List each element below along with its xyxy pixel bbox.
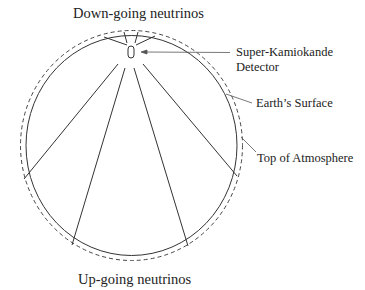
earth-surface-circle [26,36,237,256]
detector-label-line2: Detector [236,61,279,74]
bottom-label: Up-going neutrinos [78,272,191,287]
diagram-graphic [0,0,365,290]
up-going-paths [24,64,237,246]
detector-arrowhead [141,50,147,54]
top-of-atmosphere-circle [21,31,243,261]
atmosphere-leader [241,137,256,152]
earth-surface-label: Earth’s Surface [256,97,333,110]
detector-label-line1: Super-Kamiokande [236,46,333,59]
detector-icon [128,46,134,58]
atmosphere-label: Top of Atmosphere [257,152,353,165]
neutrino-diagram: Down-going neutrinos Super-Kamiokande De… [0,0,365,290]
down-going-paths [104,32,155,45]
earth-surface-leader [226,94,252,103]
top-label: Down-going neutrinos [73,6,204,21]
detector-leader [143,52,230,53]
